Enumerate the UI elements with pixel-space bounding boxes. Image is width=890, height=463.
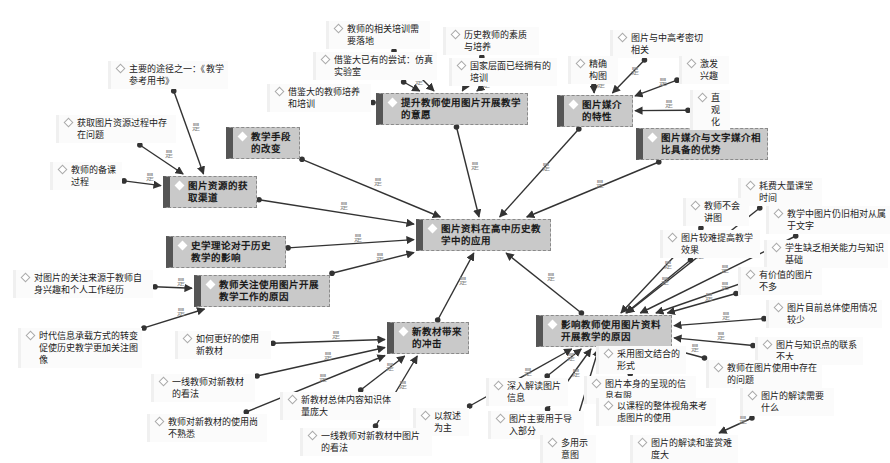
diamond-outline-icon bbox=[763, 340, 773, 350]
node-label: 新教材总体内容知识体量庞大 bbox=[301, 394, 396, 418]
leaf-node-l27[interactable]: 深入解读图片信息 bbox=[486, 378, 568, 406]
edge-label: 是 bbox=[659, 78, 667, 87]
edge-label: 是 bbox=[722, 312, 730, 321]
center-node[interactable]: 图片资料在高中历史教学中的应用 bbox=[416, 219, 551, 251]
leaf-node-l9[interactable]: 图片与中高考密切相关 bbox=[610, 30, 710, 58]
leaf-node-l12[interactable]: 直观化 bbox=[690, 90, 730, 130]
leaf-node-l29[interactable]: 多用示意图 bbox=[540, 435, 596, 463]
leaf-node-l16[interactable]: 图片较难提高教学效果 bbox=[660, 230, 760, 258]
node-label: 图片媒介与文字媒介相比具备的优势 bbox=[661, 132, 761, 156]
leaf-node-l14[interactable]: 教师不会讲图 bbox=[683, 198, 749, 226]
diamond-icon bbox=[569, 100, 579, 110]
leaf-node-l1[interactable]: 主要的途径之一：《教学参考用书》 bbox=[108, 61, 228, 89]
node-label: 以叙述为主 bbox=[434, 410, 465, 434]
leaf-node-l5[interactable]: 历史教师的素质与培养 bbox=[443, 27, 539, 55]
leaf-node-l35[interactable]: 一线教师对新教材中图片的看法 bbox=[300, 428, 432, 456]
node-label: 提升教师使用图片开展教学的意愿 bbox=[401, 97, 521, 121]
diamond-outline-icon bbox=[494, 381, 504, 391]
node-label: 教学中图片仍旧相对从属于文字 bbox=[787, 208, 886, 232]
leaf-node-l19[interactable]: 图片目前总体使用情况较少 bbox=[766, 300, 882, 328]
diamond-outline-icon bbox=[21, 273, 31, 283]
node-label: 图片较难提高教学效果 bbox=[681, 232, 756, 256]
diamond-outline-icon bbox=[548, 438, 558, 448]
diamond-icon bbox=[548, 320, 558, 330]
diamond-icon bbox=[178, 241, 188, 251]
main-node-m4[interactable]: 教学手段的改变 bbox=[226, 127, 300, 159]
edge-label: 是 bbox=[661, 277, 669, 286]
node-label: 激发兴趣 bbox=[700, 58, 725, 82]
main-node-m5[interactable]: 图片资源的获取渠道 bbox=[163, 176, 257, 208]
node-label: 影响教师使用图片资料开展教学的原因 bbox=[561, 319, 665, 343]
node-label: 图片的解读需要什么 bbox=[761, 390, 830, 414]
edge-label: 是 bbox=[665, 100, 673, 109]
node-label: 教师不会讲图 bbox=[704, 200, 745, 224]
edge-label: 是 bbox=[596, 180, 604, 189]
edge-label: 是 bbox=[547, 273, 555, 282]
leaf-node-l21[interactable]: 教师在图片使用中存在的问题 bbox=[706, 360, 822, 388]
node-label: 获取图片资源过程中存在问题 bbox=[77, 117, 172, 141]
node-label: 多用示意图 bbox=[561, 437, 592, 461]
leaf-node-l34[interactable]: 教师对新教材的使用尚不熟悉 bbox=[147, 414, 267, 442]
leaf-node-l23[interactable]: 图片的解读和鉴赏难度大 bbox=[630, 435, 738, 463]
leaf-node-l6[interactable]: 借鉴大已有的尝试：仿真实验室 bbox=[313, 52, 437, 80]
node-label: 图片资源的获取渠道 bbox=[188, 180, 250, 204]
node-label: 图片主要用于导入部分 bbox=[509, 413, 580, 437]
main-node-m6[interactable]: 史学理论对于历史教学的影响 bbox=[166, 236, 286, 268]
edge-label: 是 bbox=[165, 150, 173, 159]
leaf-node-l36[interactable]: 对图片的关注来源于教师自身兴趣和个人工作经历 bbox=[13, 270, 153, 298]
diamond-outline-icon bbox=[275, 87, 285, 97]
node-label: 借鉴大的教师培养和培训 bbox=[288, 86, 367, 110]
leaf-node-l24[interactable]: 采用图文结合的形式 bbox=[596, 346, 686, 374]
node-label: 借鉴大已有的尝试：仿真实验室 bbox=[334, 54, 433, 78]
leaf-node-l7[interactable]: 国家层面已经拥有的培训 bbox=[449, 58, 557, 86]
edge-label: 是 bbox=[721, 265, 729, 274]
main-node-m1[interactable]: 提升教师使用图片开展教学的意愿 bbox=[376, 93, 528, 125]
leaf-node-l26[interactable]: 以课程的整体视角来考虑图片的使用 bbox=[596, 398, 716, 426]
leaf-node-l13[interactable]: 耗费大量课堂时间 bbox=[738, 178, 822, 206]
node-label: 以课程的整体视角来考虑图片的使用 bbox=[617, 400, 712, 424]
edge-l33-m8 bbox=[361, 356, 405, 390]
leaf-node-l15[interactable]: 教学中图片仍旧相对从属于文字 bbox=[766, 206, 890, 234]
main-node-m2[interactable]: 图片媒介的特性 bbox=[557, 95, 633, 127]
node-label: 一线教师对新教材的看法 bbox=[172, 376, 251, 400]
node-label: 直观化 bbox=[711, 92, 726, 128]
leaf-node-l33[interactable]: 新教材总体内容知识体量庞大 bbox=[280, 392, 400, 420]
node-label: 主要的途径之一：《教学参考用书》 bbox=[129, 63, 224, 87]
diamond-outline-icon bbox=[746, 181, 756, 191]
leaf-node-l22[interactable]: 图片的解读需要什么 bbox=[740, 388, 834, 416]
diamond-outline-icon bbox=[64, 118, 74, 128]
node-label: 图片资料在高中历史教学中的应用 bbox=[441, 223, 544, 247]
diamond-outline-icon bbox=[308, 431, 318, 441]
edge-l22-l23 bbox=[719, 418, 752, 433]
node-label: 教师在图片使用中存在的问题 bbox=[727, 362, 818, 386]
diamond-outline-icon bbox=[714, 363, 724, 373]
main-node-m3[interactable]: 图片媒介与文字媒介相比具备的优势 bbox=[636, 128, 768, 160]
leaf-node-l11[interactable]: 激发兴趣 bbox=[679, 56, 729, 84]
main-node-m8[interactable]: 新教材带来的冲击 bbox=[387, 322, 469, 354]
leaf-node-l3[interactable]: 教师的备课过程 bbox=[50, 162, 122, 190]
node-label: 新教材带来的冲击 bbox=[412, 326, 462, 350]
edge-label: 是 bbox=[374, 178, 382, 187]
leaf-node-l2[interactable]: 获取图片资源过程中存在问题 bbox=[56, 115, 176, 143]
diamond-icon bbox=[428, 224, 438, 234]
edge-label: 是 bbox=[567, 353, 575, 362]
diamond-outline-icon bbox=[421, 411, 431, 421]
node-label: 教师的备课过程 bbox=[71, 164, 118, 188]
leaf-node-l37[interactable]: 时代信息承载方式的转变促使历史教学更加关注图像 bbox=[18, 328, 142, 368]
leaf-node-l31[interactable]: 如何更好的使用新教材 bbox=[175, 331, 271, 359]
leaf-node-l10[interactable]: 精确构图 bbox=[568, 56, 618, 84]
leaf-node-l4[interactable]: 教师的相关培训需要落地 bbox=[326, 21, 430, 49]
node-label: 教师的相关培训需要落地 bbox=[347, 23, 426, 47]
diamond-icon bbox=[206, 280, 216, 290]
leaf-node-l17[interactable]: 学生缺乏相关能力与知识基础 bbox=[764, 240, 888, 268]
main-node-m7[interactable]: 教师关注使用图片开展教学工作的原因 bbox=[194, 275, 330, 307]
diamond-outline-icon bbox=[451, 30, 461, 40]
leaf-node-l8[interactable]: 借鉴大的教师培养和培训 bbox=[267, 84, 371, 112]
edge-label: 是 bbox=[376, 253, 384, 262]
node-label: 如何更好的使用新教材 bbox=[196, 333, 267, 357]
edge-label: 是 bbox=[721, 282, 729, 291]
main-node-m9[interactable]: 影响教师使用图片资料开展教学的原因 bbox=[536, 315, 672, 347]
leaf-node-l32[interactable]: 一线教师对新教材的看法 bbox=[151, 374, 255, 402]
edge-label: 是 bbox=[705, 293, 713, 302]
leaf-node-l18[interactable]: 有价值的图片不多 bbox=[738, 267, 822, 295]
